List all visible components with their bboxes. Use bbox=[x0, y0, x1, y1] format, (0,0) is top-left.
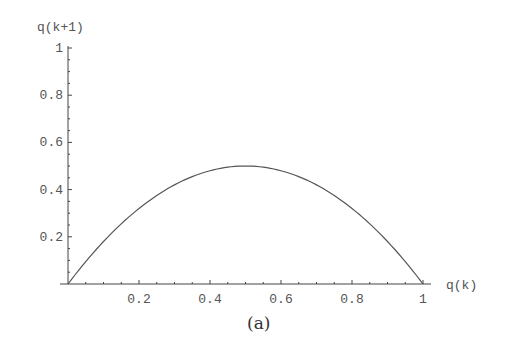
x-tick-label: 0.6 bbox=[269, 292, 292, 307]
x-axis-label: q(k) bbox=[446, 278, 477, 293]
y-tick-label: 0.8 bbox=[40, 88, 63, 103]
figure-caption: (a) bbox=[247, 313, 270, 333]
chart: 0.20.40.60.81 0.20.40.60.81 q(k) q(k+1) … bbox=[0, 0, 510, 363]
y-tick-label: 0.2 bbox=[40, 230, 63, 245]
x-tick-label: 0.4 bbox=[198, 292, 222, 307]
data-curve bbox=[68, 166, 423, 284]
y-tick-labels: 0.20.40.60.81 bbox=[40, 41, 64, 245]
y-tick-label: 0.6 bbox=[40, 135, 63, 150]
x-tick-label: 0.2 bbox=[127, 292, 150, 307]
axes bbox=[60, 46, 431, 284]
x-tick-label: 0.8 bbox=[340, 292, 363, 307]
x-tick-label: 1 bbox=[419, 292, 427, 307]
y-tick-label: 0.4 bbox=[40, 183, 64, 198]
y-axis-label: q(k+1) bbox=[37, 20, 84, 35]
y-tick-label: 1 bbox=[55, 41, 63, 56]
x-tick-labels: 0.20.40.60.81 bbox=[127, 292, 427, 307]
